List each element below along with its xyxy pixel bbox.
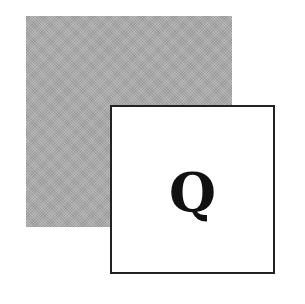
white-bordered-square: Q	[110, 105, 275, 274]
letter-q: Q	[169, 166, 216, 220]
